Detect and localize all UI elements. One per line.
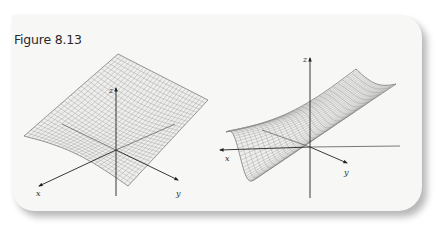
y-axis-label-right: y: [343, 168, 349, 177]
z-axis-label-right: z: [302, 55, 308, 64]
y-axis-label-left: y: [175, 189, 181, 198]
z-axis-label-left: z: [108, 86, 114, 95]
y-axis-right: [310, 147, 347, 163]
wireframe-surface-right: [226, 69, 396, 181]
x-axis-label-left: x: [36, 189, 41, 198]
figure-plots: x y z x y z: [0, 0, 440, 228]
surface-plot-left: x y z: [24, 54, 208, 198]
surface-plot-right: x y z: [220, 55, 400, 198]
x-axis-back-right: [310, 146, 400, 147]
x-axis-label-right: x: [225, 154, 230, 163]
